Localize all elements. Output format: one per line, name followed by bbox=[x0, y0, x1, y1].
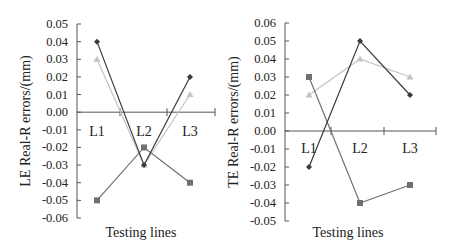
y-tick-label: -0.05 bbox=[42, 193, 68, 207]
series-triangle-line bbox=[306, 56, 414, 98]
category-label: L2 bbox=[136, 124, 152, 139]
square-marker bbox=[407, 182, 413, 188]
y-tick-label: 0.00 bbox=[254, 124, 276, 138]
y-tick-label: 0.05 bbox=[46, 17, 68, 31]
y-tick-label: -0.01 bbox=[42, 123, 68, 137]
category-label: L1 bbox=[89, 124, 105, 139]
y-tick-label: -0.04 bbox=[42, 176, 69, 190]
y-tick-label: -0.06 bbox=[42, 211, 68, 225]
y-tick-label: 0.05 bbox=[254, 34, 276, 48]
diamond-marker bbox=[187, 74, 193, 80]
triangle-marker bbox=[357, 56, 364, 62]
triangle-marker bbox=[94, 56, 101, 62]
triangle-marker bbox=[306, 92, 313, 98]
series-square-line bbox=[94, 144, 193, 203]
y-tick-label: 0.02 bbox=[46, 70, 68, 84]
category-label: L3 bbox=[182, 124, 198, 139]
category-label: L2 bbox=[352, 141, 368, 156]
y-tick-label: -0.03 bbox=[250, 178, 276, 192]
y-tick-label: 0.06 bbox=[254, 16, 276, 30]
le-errors-chart: 0.050.040.030.020.010.00-0.01-0.02-0.03-… bbox=[18, 17, 215, 240]
charts-canvas: 0.050.040.030.020.010.00-0.01-0.02-0.03-… bbox=[0, 0, 454, 243]
y-tick-label: -0.05 bbox=[250, 214, 276, 228]
y-tick-label: -0.02 bbox=[250, 160, 276, 174]
x-axis-title: Testing lines bbox=[313, 225, 384, 240]
square-marker bbox=[94, 197, 100, 203]
y-tick-label: 0.03 bbox=[46, 52, 68, 66]
diamond-marker bbox=[306, 164, 312, 170]
y-tick-label: 0.04 bbox=[254, 52, 277, 66]
y-tick-label: 0.01 bbox=[254, 106, 276, 120]
y-axis-title: TE Real-R errors/(mm) bbox=[226, 56, 242, 188]
square-marker bbox=[187, 180, 193, 186]
y-tick-label: -0.02 bbox=[42, 140, 68, 154]
y-tick-label: 0.01 bbox=[46, 88, 68, 102]
y-tick-label: 0.02 bbox=[254, 88, 276, 102]
diamond-marker bbox=[94, 39, 100, 45]
x-axis-title: Testing lines bbox=[106, 225, 177, 240]
y-axis-title: LE Real-R errors/(mm) bbox=[18, 55, 34, 187]
square-marker bbox=[357, 200, 363, 206]
series-square-line bbox=[306, 74, 413, 206]
y-tick-label: 0.04 bbox=[46, 35, 69, 49]
triangle-marker bbox=[187, 91, 194, 97]
y-tick-label: -0.03 bbox=[42, 158, 68, 172]
y-tick-label: -0.04 bbox=[250, 196, 277, 210]
y-tick-label: 0.03 bbox=[254, 70, 276, 84]
te-errors-chart: 0.060.050.040.030.020.010.00-0.01-0.02-0… bbox=[226, 16, 436, 240]
square-marker bbox=[306, 74, 312, 80]
category-label: L3 bbox=[402, 141, 418, 156]
y-tick-label: 0.00 bbox=[46, 105, 68, 119]
square-marker bbox=[141, 144, 147, 150]
y-tick-label: -0.01 bbox=[250, 142, 276, 156]
